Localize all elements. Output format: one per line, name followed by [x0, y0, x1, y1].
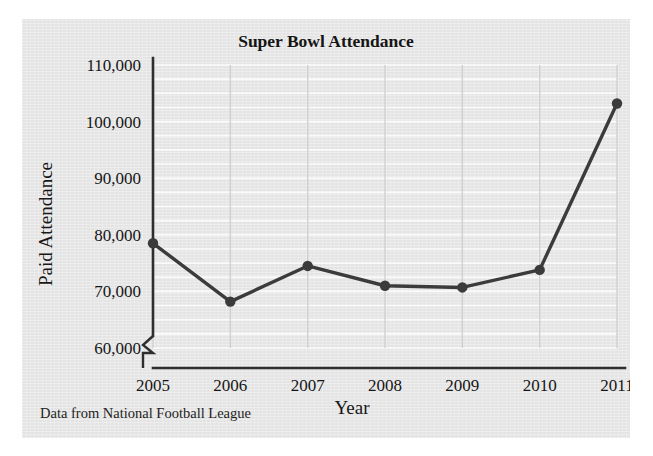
data-point-marker	[534, 265, 544, 275]
y-tick-label: 60,000	[94, 339, 141, 358]
y-axis-title: Paid Attendance	[35, 162, 56, 286]
super-bowl-attendance-chart: Super Bowl Attendance 60,00070,00080,000…	[22, 19, 630, 438]
data-point-marker	[148, 238, 158, 248]
y-tick-label: 110,000	[86, 56, 141, 75]
source-note: Data from National Football League	[40, 405, 251, 421]
data-point-marker	[302, 261, 312, 271]
y-axis-tick-labels: 60,00070,00080,00090,000100,000110,000	[86, 56, 141, 358]
y-tick-label: 70,000	[94, 282, 141, 301]
figure-root: Super Bowl Attendance 60,00070,00080,000…	[0, 0, 653, 456]
chart-title: Super Bowl Attendance	[238, 31, 414, 51]
y-axis-break-icon	[143, 336, 153, 368]
y-tick-label: 90,000	[94, 169, 141, 188]
chart-panel: Super Bowl Attendance 60,00070,00080,000…	[22, 19, 630, 438]
y-tick-label: 100,000	[86, 113, 141, 132]
data-point-marker	[225, 296, 235, 306]
data-point-marker	[612, 98, 622, 108]
source-note-container: Data from National Football League	[22, 391, 630, 431]
y-tick-label: 80,000	[94, 226, 141, 245]
data-point-marker	[457, 282, 467, 292]
data-point-marker	[380, 281, 390, 291]
